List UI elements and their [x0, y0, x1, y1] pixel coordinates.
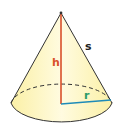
cone-diagram: h s r [0, 0, 122, 139]
slant-label: s [85, 40, 92, 53]
height-label: h [52, 56, 60, 69]
radius-label: r [84, 89, 90, 102]
apex-point [60, 12, 63, 15]
